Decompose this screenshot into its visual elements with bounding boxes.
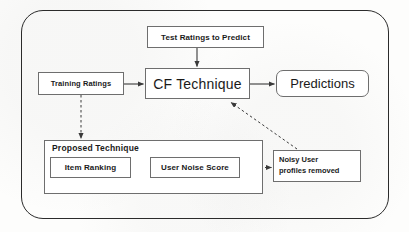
node-user-noise-score[interactable]: User Noise Score — [150, 157, 240, 178]
diagram-canvas: Test Ratings to Predict Training Ratings… — [0, 0, 409, 232]
noisy-user-line-1: Noisy User — [279, 155, 318, 166]
node-predictions[interactable]: Predictions — [276, 70, 369, 97]
node-item-ranking[interactable]: Item Ranking — [50, 157, 131, 178]
node-training-ratings[interactable]: Training Ratings — [38, 72, 124, 95]
node-test-ratings-to-predict[interactable]: Test Ratings to Predict — [147, 26, 264, 48]
noisy-user-line-2: profiles removed — [279, 166, 339, 177]
node-noisy-user-profiles-removed[interactable]: Noisy User profiles removed — [273, 150, 361, 182]
node-cf-technique[interactable]: CF Technique — [145, 68, 250, 99]
group-proposed-technique-label: Proposed Technique — [52, 143, 139, 153]
